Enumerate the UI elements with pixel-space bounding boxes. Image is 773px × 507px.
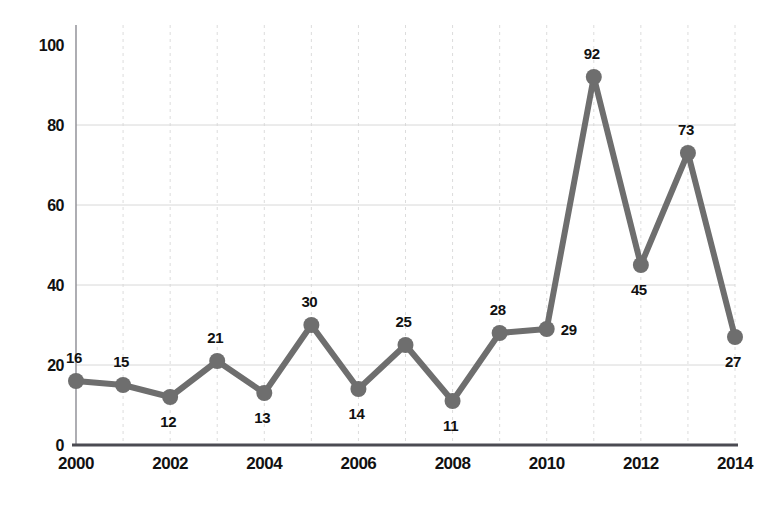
x-tick-label: 2004 <box>246 454 283 473</box>
vertical-gridlines <box>123 25 735 445</box>
data-point-label: 73 <box>678 121 694 138</box>
x-axis-tick-labels: 20002002200420062008201020122014 <box>58 454 754 473</box>
data-point-marker <box>539 321 555 337</box>
x-tick-label: 2014 <box>717 454 754 473</box>
data-point-marker <box>680 145 696 161</box>
data-point-label: 29 <box>561 321 577 338</box>
data-point-marker <box>115 377 131 393</box>
data-point-marker <box>209 353 225 369</box>
x-tick-label: 2008 <box>435 454 471 473</box>
data-point-marker <box>256 385 272 401</box>
data-point-marker <box>445 393 461 409</box>
data-point-marker <box>727 329 743 345</box>
y-tick-label: 60 <box>47 197 64 214</box>
data-point-marker <box>492 325 508 341</box>
data-point-label: 45 <box>631 281 647 298</box>
data-point-label: 12 <box>160 413 176 430</box>
series-markers <box>68 69 743 409</box>
data-point-marker <box>68 373 84 389</box>
chart-canvas: 020406080100 200020022004200620082010201… <box>0 0 773 507</box>
data-point-label: 30 <box>301 293 317 310</box>
data-point-label: 27 <box>725 353 741 370</box>
y-tick-label: 80 <box>47 117 64 134</box>
series-data-labels: 161512211330142511282992457327 <box>66 45 741 434</box>
data-point-marker <box>398 337 414 353</box>
y-axis-tick-labels: 020406080100 <box>39 37 65 454</box>
x-tick-label: 2000 <box>58 454 94 473</box>
data-point-marker <box>586 69 602 85</box>
x-tick-label: 2002 <box>152 454 188 473</box>
data-point-label: 28 <box>490 301 506 318</box>
data-point-label: 16 <box>66 349 82 366</box>
data-point-marker <box>633 257 649 273</box>
y-tick-label: 0 <box>56 437 65 454</box>
x-tick-label: 2006 <box>341 454 377 473</box>
data-point-marker <box>162 389 178 405</box>
data-point-marker <box>350 381 366 397</box>
data-point-label: 21 <box>207 329 223 346</box>
x-tick-label: 2012 <box>623 454 659 473</box>
y-tick-label: 40 <box>47 277 64 294</box>
data-point-label: 92 <box>584 45 600 62</box>
data-point-label: 13 <box>254 409 270 426</box>
y-tick-label: 100 <box>39 37 65 54</box>
data-point-label: 14 <box>348 405 365 422</box>
x-tick-label: 2010 <box>529 454 565 473</box>
y-tick-label: 20 <box>47 357 64 374</box>
data-point-label: 25 <box>396 313 412 330</box>
data-point-label: 11 <box>443 417 458 434</box>
data-point-marker <box>303 317 319 333</box>
line-chart: 020406080100 200020022004200620082010201… <box>0 0 773 507</box>
data-point-label: 15 <box>113 353 129 370</box>
